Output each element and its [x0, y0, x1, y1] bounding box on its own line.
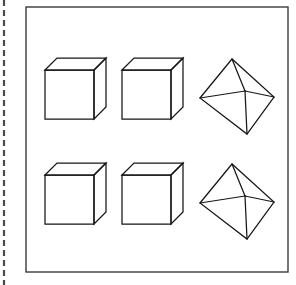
- cube-top-left: [45, 58, 106, 119]
- figure-container: [0, 0, 296, 285]
- figure-canvas: [0, 0, 296, 285]
- cube-top-middle: [122, 58, 183, 119]
- cube-bottom-left: [45, 163, 106, 224]
- cube-bottom-middle: [122, 163, 183, 224]
